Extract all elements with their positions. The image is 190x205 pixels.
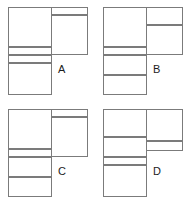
shape-cell-left-3 [8,55,52,63]
shape-cell-left-3 [103,55,147,75]
figure-root: A B C D [0,0,190,205]
shape-cell-left-2 [8,47,52,55]
shape-cell-left-1 [8,7,52,47]
shape-diagram-d [103,109,183,197]
shape-cell-left-4 [103,165,147,197]
shape-cell-left-1 [103,7,147,47]
shape-diagram-b [103,7,183,95]
shape-cell-right-2 [146,25,183,55]
shape-cell-left-2 [8,149,52,157]
option-label-b: B [153,64,161,75]
shape-diagram-a [8,7,88,95]
shape-cell-left-3 [8,157,52,177]
option-label-d: D [153,166,161,177]
shape-cell-left-4 [103,75,147,95]
shape-cell-right-2 [146,141,183,151]
shape-cell-left-4 [8,177,52,197]
shape-cell-right-1 [146,109,183,141]
shape-cell-right-1 [146,7,183,25]
option-label-a: A [58,64,66,75]
shape-cell-right-1 [51,7,88,15]
shape-cell-left-4 [8,63,52,95]
shape-cell-right-1 [51,109,88,117]
shape-cell-left-3 [103,157,147,165]
shape-cell-left-1 [8,109,52,149]
shape-cell-left-1 [103,109,147,137]
option-panel-b[interactable] [95,0,190,102]
shape-cell-right-2 [51,117,88,157]
option-label-c: C [58,166,66,177]
option-panel-c[interactable] [0,102,95,204]
option-panel-d[interactable] [95,102,190,204]
shape-cell-right-2 [51,15,88,55]
shape-cell-left-2 [103,47,147,55]
shape-cell-left-2 [103,137,147,157]
option-panel-a[interactable] [0,0,95,102]
shape-diagram-c [8,109,88,197]
